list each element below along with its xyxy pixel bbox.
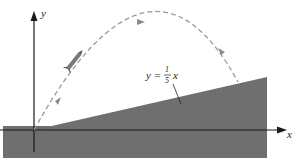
slope-equation-label: y = 1 5 x — [145, 65, 178, 85]
x-axis-arrow-icon — [277, 127, 287, 134]
descending-arrow-icon — [218, 48, 225, 55]
y-axis-label: y — [40, 7, 46, 19]
fraction-numerator: 1 — [165, 65, 169, 74]
x-axis-label: x — [286, 128, 292, 140]
y-axis-arrow-icon — [31, 11, 38, 21]
fraction-denominator: 5 — [165, 76, 169, 85]
ascending-arrow-icon — [137, 19, 145, 25]
launch-arrow-icon — [55, 97, 61, 105]
ground-region — [3, 126, 267, 158]
incline-surface — [34, 77, 267, 130]
svg-text:x: x — [172, 69, 178, 81]
svg-text:y =: y = — [145, 69, 161, 81]
rocket-icon — [63, 47, 87, 74]
diagram-canvas: x y y = 1 5 x — [0, 0, 300, 162]
